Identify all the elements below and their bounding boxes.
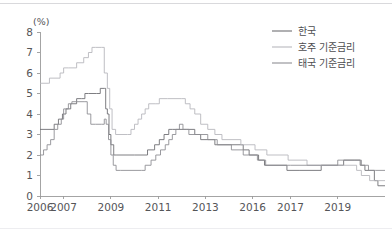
series-line bbox=[40, 88, 385, 185]
chart-legend: 한국호주 기준금리태국 기준금리 bbox=[272, 26, 355, 69]
y-tick-label: 4 bbox=[26, 108, 33, 120]
interest-rate-line-chart: (%) 012345678 20062007200920112013201620… bbox=[0, 0, 392, 237]
y-tick-label: 7 bbox=[26, 46, 33, 58]
x-tick-label: 2011 bbox=[145, 201, 172, 213]
y-tick-label: 3 bbox=[26, 128, 33, 140]
x-axis: 20062007200920112013201620172019 bbox=[27, 196, 385, 213]
legend-label: 호주 기준금리 bbox=[298, 42, 355, 53]
x-tick-label: 2019 bbox=[324, 201, 351, 213]
y-tick-label: 2 bbox=[26, 149, 33, 161]
legend-label: 태국 기준금리 bbox=[298, 58, 355, 69]
chart-figure: (%) 012345678 20062007200920112013201620… bbox=[0, 0, 392, 237]
x-tick-label: 2016 bbox=[239, 201, 266, 213]
y-axis-unit-label-group: (%) bbox=[33, 16, 49, 27]
y-axis-unit-label: (%) bbox=[33, 16, 49, 27]
y-tick-label: 0 bbox=[26, 190, 33, 202]
y-tick-label: 5 bbox=[26, 87, 33, 99]
y-tick-label: 6 bbox=[26, 67, 33, 79]
y-tick-label: 1 bbox=[26, 169, 33, 181]
x-tick-label: 2009 bbox=[98, 201, 125, 213]
x-tick-label: 2017 bbox=[277, 201, 304, 213]
y-axis: 012345678 bbox=[26, 26, 40, 202]
y-tick-label: 8 bbox=[26, 26, 33, 38]
x-tick-label: 2013 bbox=[192, 201, 219, 213]
legend-label: 한국 bbox=[298, 26, 316, 37]
series-line bbox=[40, 102, 385, 171]
x-tick-label: 2007 bbox=[50, 201, 77, 213]
